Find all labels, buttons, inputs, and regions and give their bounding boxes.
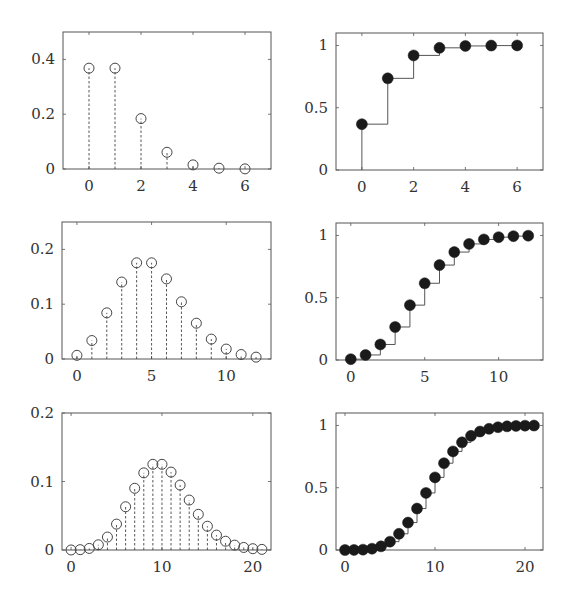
y-tick-label: 0.2	[30, 404, 54, 422]
data-point	[434, 42, 445, 53]
x-tick-label: 5	[147, 367, 157, 385]
x-tick-label: 0	[66, 558, 76, 576]
y-tick-label: 0.5	[304, 479, 328, 497]
data-point	[529, 420, 540, 431]
data-point	[449, 247, 460, 258]
x-tick-label: 10	[489, 368, 508, 386]
data-point	[460, 40, 471, 51]
data-point	[486, 40, 497, 51]
data-point	[408, 50, 419, 61]
x-tick-label: 2	[136, 177, 146, 195]
y-tick-label: 0.5	[304, 99, 328, 117]
x-tick-label: 0	[346, 368, 356, 386]
x-tick-label: 5	[420, 368, 430, 386]
y-tick-label: 0.1	[30, 473, 54, 491]
subplot-pmf-lambda1: 024600.20.4	[31, 32, 271, 195]
x-tick-label: 2	[409, 178, 419, 196]
y-tick-label: 0.2	[31, 105, 55, 123]
y-tick-label: 0	[45, 160, 55, 178]
x-tick-label: 4	[188, 177, 198, 195]
x-tick-label: 20	[515, 558, 534, 576]
x-tick-label: 10	[425, 558, 444, 576]
y-tick-label: 0	[318, 161, 328, 179]
figure-canvas: 024600.20.4024600.51051000.10.2051000.51…	[0, 0, 570, 603]
axes-frame	[336, 413, 543, 550]
x-tick-label: 20	[243, 558, 262, 576]
x-tick-label: 0	[340, 558, 350, 576]
y-tick-label: 0	[44, 541, 54, 559]
axes-frame	[63, 32, 271, 169]
data-point	[448, 446, 459, 457]
subplot-pmf-lambda10: 0102000.10.2	[30, 404, 271, 576]
y-tick-label: 0.4	[31, 50, 55, 68]
y-tick-label: 1	[318, 416, 328, 434]
axes-frame	[62, 413, 271, 550]
x-tick-label: 0	[84, 177, 94, 195]
x-tick-label: 0	[357, 178, 367, 196]
y-tick-label: 0.1	[30, 295, 54, 313]
y-tick-label: 0.2	[30, 240, 54, 258]
data-point	[403, 517, 414, 528]
data-point	[421, 487, 432, 498]
data-point	[385, 536, 396, 547]
data-point	[478, 234, 489, 245]
y-tick-label: 1	[318, 226, 328, 244]
data-point	[375, 339, 386, 350]
data-point	[508, 231, 519, 242]
x-tick-label: 4	[461, 178, 471, 196]
y-tick-label: 0	[318, 351, 328, 369]
y-tick-label: 0	[318, 541, 328, 559]
data-point	[390, 321, 401, 332]
data-point	[434, 260, 445, 271]
data-point	[360, 349, 371, 360]
subplot-pmf-lambda5: 051000.10.2	[30, 222, 271, 385]
y-tick-label: 1	[318, 36, 328, 54]
data-point	[345, 354, 356, 365]
x-tick-label: 10	[152, 558, 171, 576]
x-tick-label: 6	[240, 177, 250, 195]
data-point	[430, 472, 441, 483]
data-point	[512, 40, 523, 51]
x-tick-label: 6	[512, 178, 522, 196]
data-point	[404, 300, 415, 311]
y-tick-label: 0.5	[304, 289, 328, 307]
subplot-cdf-lambda5: 051000.51	[304, 223, 543, 386]
data-point	[464, 238, 475, 249]
data-point	[394, 528, 405, 539]
data-point	[493, 232, 504, 243]
data-point	[419, 278, 430, 289]
data-point	[356, 119, 367, 130]
data-point	[439, 458, 450, 469]
data-point	[412, 503, 423, 514]
data-point	[382, 73, 393, 84]
x-tick-label: 10	[217, 367, 236, 385]
y-tick-label: 0	[44, 350, 54, 368]
x-tick-label: 0	[72, 367, 82, 385]
axes-frame	[336, 223, 543, 360]
data-point	[523, 230, 534, 241]
data-point	[457, 437, 468, 448]
figure: 024600.20.4024600.51051000.10.2051000.51…	[0, 0, 570, 603]
subplot-cdf-lambda10: 0102000.51	[304, 413, 543, 576]
subplot-cdf-lambda1: 024600.51	[304, 33, 543, 196]
